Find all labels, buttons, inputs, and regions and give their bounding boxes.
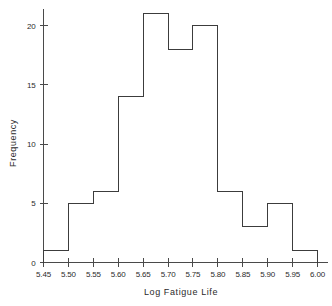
x-tick-label: 5.75 (186, 270, 202, 279)
y-tick-label: 0 (31, 259, 36, 268)
x-tick-label: 5.60 (111, 270, 127, 279)
histogram-outline (44, 14, 318, 263)
x-tick-label: 5.70 (161, 270, 177, 279)
x-tick-label: 5.85 (235, 270, 251, 279)
x-axis-tick-labels: 5.455.505.555.605.655.705.755.805.855.90… (36, 270, 326, 279)
x-tick-label: 5.50 (61, 270, 77, 279)
y-axis-tick-labels: 05101520 (27, 22, 36, 268)
chart-canvas: 05101520 5.455.505.555.605.655.705.755.8… (0, 0, 332, 306)
x-axis-title: Log Fatigue Life (144, 287, 218, 297)
y-tick-label: 20 (27, 22, 36, 31)
y-tick-label: 15 (27, 81, 36, 90)
histogram-figure: 05101520 5.455.505.555.605.655.705.755.8… (0, 0, 332, 306)
y-tick-label: 10 (27, 140, 36, 149)
x-tick-label: 5.80 (210, 270, 226, 279)
x-tick-label: 5.45 (36, 270, 52, 279)
x-tick-label: 5.65 (136, 270, 152, 279)
x-tick-label: 5.95 (285, 270, 301, 279)
y-axis-title: Frequency (8, 119, 18, 167)
y-tick-label: 5 (31, 199, 36, 208)
x-tick-label: 5.90 (260, 270, 276, 279)
x-tick-label: 6.00 (310, 270, 326, 279)
x-tick-label: 5.55 (86, 270, 102, 279)
